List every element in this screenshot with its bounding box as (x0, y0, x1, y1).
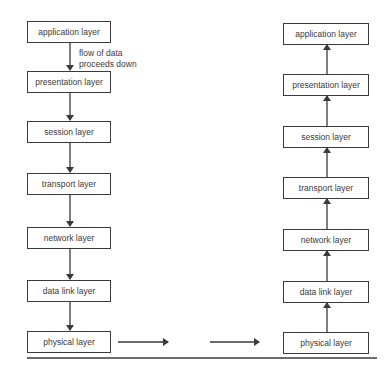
sender-session-layer: session layer (27, 121, 111, 143)
receiver-physical-layer: physical layer (283, 332, 369, 354)
sender-network-layer: network layer (27, 227, 111, 249)
receiver-session-layer: session layer (283, 126, 369, 148)
receiver-network-layer: network layer (283, 229, 369, 251)
sender-application-layer: application layer (27, 21, 111, 43)
flow-annotation-line1: flow of data (79, 48, 137, 59)
sender-physical-layer: physical layer (27, 331, 111, 353)
receiver-data-link-layer: data link layer (283, 281, 369, 303)
sender-transport-layer: transport layer (27, 173, 111, 195)
flow-annotation: flow of data proceeds down (79, 48, 137, 69)
receiver-transport-layer: transport layer (283, 177, 369, 199)
sender-data-link-layer: data link layer (27, 280, 111, 302)
sender-presentation-layer: presentation layer (27, 71, 111, 93)
flow-annotation-line2: proceeds down (79, 59, 137, 70)
receiver-application-layer: application layer (283, 23, 369, 45)
receiver-presentation-layer: presentation layer (283, 74, 369, 96)
